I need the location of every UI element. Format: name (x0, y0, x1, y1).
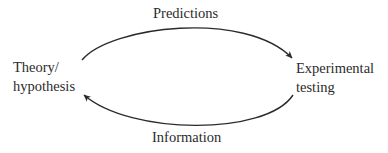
experimental-node-line-2: testing (296, 78, 374, 97)
theory-hypothesis-node: Theory/ hypothesis (13, 58, 75, 96)
theory-node-line-1: Theory/ (13, 58, 75, 77)
information-label: Information (152, 128, 221, 147)
experimental-testing-node: Experimental testing (296, 59, 374, 97)
experimental-node-line-1: Experimental (296, 59, 374, 78)
predictions-arrow (82, 28, 292, 60)
cycle-diagram: Predictions Information Theory/ hypothes… (0, 0, 388, 153)
information-arrow (84, 95, 293, 125)
predictions-label: Predictions (153, 4, 218, 23)
theory-node-line-2: hypothesis (13, 77, 75, 96)
